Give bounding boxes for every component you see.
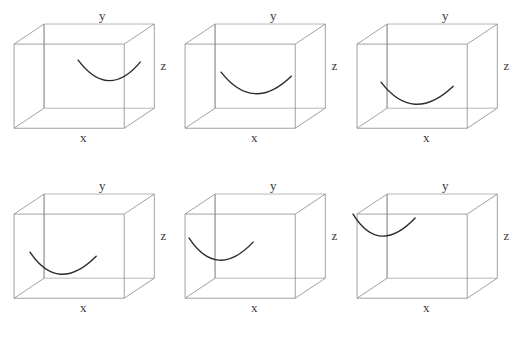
axis-label-z: z — [332, 228, 338, 243]
cube-edge-connector-top-left — [14, 24, 44, 44]
cube-edge-connector-bottom-right — [124, 108, 154, 128]
cube-panel: yzx — [171, 170, 342, 340]
axis-label-y: y — [270, 178, 277, 193]
cube-edge-connector-bottom-left — [357, 279, 387, 299]
cube-edge-connector-bottom-right — [296, 279, 326, 299]
axis-label-y: y — [442, 8, 449, 23]
cube-edge-connector-top-left — [14, 194, 44, 214]
cube-edge-connector-bottom-right — [467, 108, 497, 128]
axis-label-y: y — [270, 8, 277, 23]
parabola-curve — [381, 82, 453, 104]
cube-figure-grid: yzxyzxyzxyzxyzxyzx — [0, 0, 514, 340]
axis-label-z: z — [160, 228, 166, 243]
axis-label-x: x — [80, 130, 87, 145]
axis-label-y: y — [99, 178, 106, 193]
axis-label-x: x — [251, 301, 258, 316]
axis-label-y: y — [99, 8, 106, 23]
cube-edge-connector-top-left — [357, 194, 387, 214]
axis-label-y: y — [442, 178, 449, 193]
axis-label-x: x — [251, 130, 258, 145]
cube-edge-connector-top-right — [296, 24, 326, 44]
cube-panel: yzx — [0, 170, 171, 340]
axis-label-x: x — [423, 130, 430, 145]
cube-panel: yzx — [343, 0, 514, 170]
cube-edge-connector-top-right — [296, 194, 326, 214]
cube-panel: yzx — [0, 0, 171, 170]
parabola-curve — [189, 238, 253, 260]
cube-edge-connector-top-left — [357, 24, 387, 44]
parabola-curve — [78, 60, 140, 81]
axis-label-z: z — [332, 58, 338, 73]
cube-edge-connector-bottom-right — [296, 108, 326, 128]
cube-edge-connector-bottom-left — [357, 108, 387, 128]
cube-edge-connector-bottom-right — [124, 279, 154, 299]
cube-edge-connector-top-left — [185, 194, 215, 214]
cube-edge-connector-bottom-right — [467, 279, 497, 299]
cube-edge-connector-top-left — [185, 24, 215, 44]
axis-label-z: z — [160, 58, 166, 73]
cube-edge-connector-bottom-left — [185, 279, 215, 299]
parabola-curve — [353, 214, 415, 236]
cube-edge-connector-top-right — [467, 24, 497, 44]
axis-label-z: z — [503, 58, 509, 73]
cube-edge-connector-top-right — [124, 194, 154, 214]
parabola-curve — [221, 72, 291, 94]
cube-panel: yzx — [343, 170, 514, 340]
cube-edge-connector-bottom-left — [185, 108, 215, 128]
cube-edge-connector-bottom-left — [14, 279, 44, 299]
axis-label-x: x — [423, 301, 430, 316]
cube-edge-connector-top-right — [124, 24, 154, 44]
cube-edge-connector-bottom-left — [14, 108, 44, 128]
cube-edge-connector-top-right — [467, 194, 497, 214]
axis-label-z: z — [503, 228, 509, 243]
parabola-curve — [30, 252, 96, 274]
cube-panel: yzx — [171, 0, 342, 170]
axis-label-x: x — [80, 301, 87, 316]
